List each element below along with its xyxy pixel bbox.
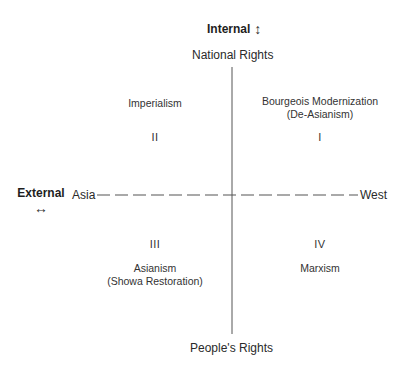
- internal-label: Internal: [207, 22, 250, 36]
- quadrant-i-numeral: I: [250, 131, 390, 143]
- external-label: External: [16, 186, 66, 200]
- west-label: West: [360, 188, 387, 202]
- quadrant-i: Bourgeois Modernization (De-Asianism) I: [250, 95, 390, 143]
- peoples-rights-label: People's Rights: [190, 341, 273, 355]
- asia-label: Asia: [72, 188, 95, 202]
- quadrant-iii-sublabel: (Showa Restoration): [95, 275, 215, 288]
- quadrant-iv-numeral: IV: [270, 238, 370, 250]
- horizontal-axis-title: External ↔: [16, 186, 66, 215]
- quadrant-iv: IV Marxism: [270, 238, 370, 275]
- quadrant-iii-label: Asianism: [95, 262, 215, 275]
- quadrant-ii-numeral: II: [105, 131, 205, 143]
- quadrant-iii: III Asianism (Showa Restoration): [95, 238, 215, 288]
- quadrant-ii: Imperialism II: [105, 97, 205, 143]
- left-right-arrow-icon: ↔: [16, 201, 66, 215]
- national-rights-label: National Rights: [192, 48, 273, 62]
- vertical-axis-title: Internal ↕: [207, 22, 261, 36]
- quadrant-iii-numeral: III: [95, 238, 215, 250]
- quadrant-ii-label: Imperialism: [105, 97, 205, 110]
- quadrant-i-label: Bourgeois Modernization: [250, 95, 390, 108]
- quadrant-iv-label: Marxism: [270, 262, 370, 275]
- quadrant-i-sublabel: (De-Asianism): [250, 108, 390, 121]
- up-down-arrow-icon: ↕: [254, 22, 261, 36]
